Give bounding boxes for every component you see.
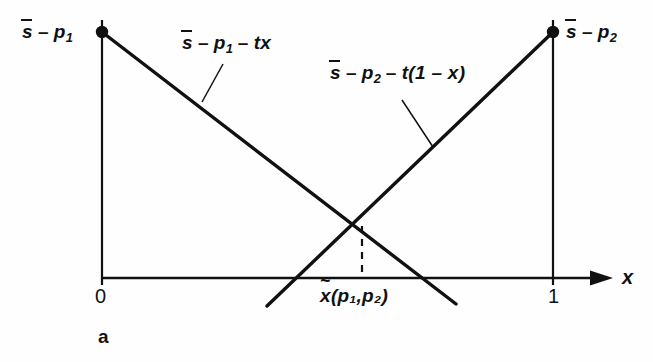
intersection-label: x(p₁,p₂) <box>320 286 388 305</box>
left-endpoint-dot <box>96 26 108 38</box>
upward-label-sub1: 2 <box>374 71 381 86</box>
diagram-canvas <box>0 0 653 362</box>
x-axis-arrowhead <box>590 271 613 286</box>
leader-line-upward-label <box>402 100 433 147</box>
x-tick-label-1: 1 <box>548 286 559 306</box>
downward-label-minus-1: – <box>193 32 214 53</box>
right-endpoint-label: s–p2 <box>566 22 617 45</box>
left-endpoint-term: p <box>54 21 66 42</box>
left-endpoint-sbar: s <box>22 22 33 41</box>
left-endpoint-label: s–p1 <box>22 22 73 45</box>
x-tick-label-0: 0 <box>95 286 106 306</box>
upward-label-sbar: s <box>330 63 341 82</box>
panel-label: a <box>98 327 109 346</box>
leader-line-downward-label <box>202 64 223 102</box>
upward-line-label: s–p2–t(1 – x) <box>330 63 465 86</box>
downward-label-minus-2: – <box>233 32 254 53</box>
intersection-xtilde: x <box>320 286 331 305</box>
downward-label-sbar: s <box>182 33 193 52</box>
x-axis-label: x <box>622 267 633 287</box>
downward-line-label: s–p1–tx <box>182 33 271 56</box>
upward-label-minus-1: – <box>341 62 362 83</box>
upward-label-minus-2: – <box>381 62 402 83</box>
right-endpoint-sbar: s <box>566 22 577 41</box>
right-endpoint-term: p <box>598 21 610 42</box>
intersection-args: (p₁,p₂) <box>331 285 388 306</box>
right-endpoint-minus: – <box>577 21 598 42</box>
upward-label-term1: p <box>362 62 374 83</box>
left-endpoint-minus: – <box>33 21 54 42</box>
right-endpoint-sub: 2 <box>610 30 617 45</box>
right-endpoint-dot <box>547 26 559 38</box>
downward-label-term2: tx <box>254 32 272 53</box>
downward-label-sub1: 1 <box>226 41 233 56</box>
left-endpoint-sub: 1 <box>66 30 73 45</box>
upward-label-term2: t(1 – x) <box>402 62 466 83</box>
downward-label-term1: p <box>214 32 226 53</box>
